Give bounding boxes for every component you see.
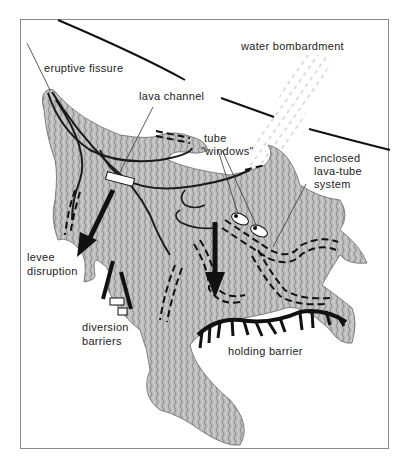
contour-line-right bbox=[309, 129, 390, 150]
label-tube-windows-2: "windows" bbox=[201, 145, 254, 158]
label-eruptive-fissure: eruptive fissure bbox=[44, 62, 123, 75]
diversion-block bbox=[118, 308, 127, 315]
label-enclosed-3: system bbox=[314, 178, 351, 191]
label-tube-windows-1: tube bbox=[204, 132, 227, 145]
label-enclosed-1: enclosed bbox=[314, 152, 360, 165]
label-levee-1: levee bbox=[27, 251, 55, 264]
contour-line-middle bbox=[221, 98, 274, 117]
label-diversion-2: barriers bbox=[82, 335, 122, 348]
label-diversion-1: diversion bbox=[82, 321, 129, 334]
label-levee-2: disruption bbox=[27, 265, 78, 278]
label-enclosed-2: lava-tube bbox=[314, 165, 362, 178]
label-water-bombardment: water bombardment bbox=[241, 40, 344, 53]
diversion-block bbox=[110, 298, 124, 305]
label-holding-barrier: holding barrier bbox=[228, 345, 303, 358]
label-lava-channel: lava channel bbox=[139, 90, 204, 103]
